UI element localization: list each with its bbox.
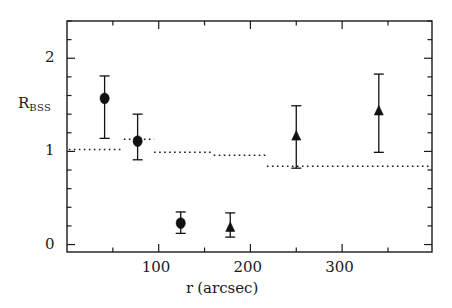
x-axis-title-unit: (arcsec) xyxy=(197,279,258,297)
x-tick-label-100: 100 xyxy=(142,260,171,275)
x-tick-label-200: 200 xyxy=(233,260,262,275)
marker-triangle xyxy=(374,105,383,115)
y-tick-label-0: 0 xyxy=(45,237,55,252)
figure-panel: 0 1 2 100 200 300 RBSS r(arcsec) xyxy=(0,0,452,308)
y-axis-title-subscript: BSS xyxy=(29,102,51,113)
y-tick-label-1: 1 xyxy=(45,143,55,158)
y-axis-title: RBSS xyxy=(18,96,51,111)
x-tick-label-300: 300 xyxy=(325,260,354,275)
x-axis-title-main: r xyxy=(186,279,193,297)
frame-rect xyxy=(67,21,432,252)
y-axis-title-main: R xyxy=(18,94,29,112)
axes-frame xyxy=(67,21,432,252)
marker-circle xyxy=(176,218,185,229)
x-axis-title: r(arcsec) xyxy=(186,281,258,296)
marker-triangle xyxy=(226,222,235,232)
plot-canvas xyxy=(0,0,452,308)
marker-triangle xyxy=(292,131,301,141)
axis-ticks xyxy=(67,21,432,252)
marker-circle xyxy=(100,93,109,104)
data-points xyxy=(100,74,384,237)
y-tick-label-2: 2 xyxy=(45,50,55,65)
marker-circle xyxy=(133,136,142,147)
